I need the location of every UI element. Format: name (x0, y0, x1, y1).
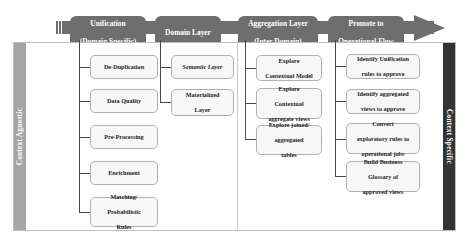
node-pre-processing[interactable]: Pre-Processing (90, 125, 158, 149)
node-line: Pre-Processing (93, 133, 155, 140)
node-line: Glossary of (349, 173, 417, 180)
node-line: Explore (259, 85, 319, 92)
connector-trunk-aggregation (245, 40, 246, 140)
node-identify-unification-rules[interactable]: Identify Unification rules to approve (346, 54, 420, 79)
node-line: views to approve (349, 105, 417, 112)
node-line: Explore joined/ (259, 121, 319, 128)
node-line: rules to approve (349, 70, 417, 77)
node-line: tables (259, 151, 319, 158)
node-line: aggregated (259, 136, 319, 143)
side-label-context-specific: Context Specific (443, 43, 455, 230)
arrow-head-icon (414, 15, 445, 41)
node-line: Probabilistic (93, 208, 155, 215)
node-materialized-layer[interactable]: Materialized Layer (171, 89, 234, 116)
node-explore-contextual-model[interactable]: Explore Contextual Model (256, 55, 322, 81)
stage-label-line1: Promote to (331, 19, 401, 28)
node-line: Build Business (349, 158, 417, 165)
node-matching-probabilistic-rules[interactable]: Matching/ Probabilistic Rules (90, 197, 158, 227)
connector-trunk-unification (79, 40, 80, 213)
node-line: operational jobs (349, 150, 417, 157)
stage-label-line1: Domain Layer (158, 28, 218, 37)
node-line: approved views (349, 188, 417, 195)
side-label-context-agnostic: Context Agnostic (14, 43, 26, 230)
node-convert-exploratory-rules[interactable]: Convert exploratory rules to operational… (346, 123, 420, 154)
node-line: Convert (349, 120, 417, 127)
node-line: Rules (93, 223, 155, 230)
node-build-business-glossary[interactable]: Build Business Glossary of approved view… (346, 161, 420, 192)
connector-trunk-domain-layer (160, 40, 161, 103)
node-line: Layer (174, 106, 231, 113)
node-enrichment[interactable]: Enrichment (90, 161, 158, 185)
process-arrow-band: Unification (Domain Specific) Domain Lay… (0, 8, 469, 46)
stage-label-line1: Unification (73, 19, 143, 28)
node-explore-contextual-aggregate-views[interactable]: Explore Contextual aggregate views (256, 88, 322, 119)
connector-trunk-promote (335, 40, 336, 177)
node-line: De-Duplication (93, 63, 155, 70)
node-data-quality[interactable]: Data Quality (90, 89, 158, 113)
node-line: Enrichment (93, 169, 155, 176)
node-explore-joined-aggregated-tables[interactable]: Explore joined/ aggregated tables (256, 125, 322, 155)
node-line: Identify Unification (349, 55, 417, 62)
node-line: Contextual (259, 100, 319, 107)
node-line: Materialized (174, 91, 231, 98)
node-line: Matching/ (93, 193, 155, 200)
node-line: exploratory rules to (349, 135, 417, 142)
node-line: Explore (259, 57, 319, 64)
side-label-text: Context Specific (445, 109, 453, 164)
node-line: Identify aggregated (349, 90, 417, 97)
stage-label-line1: Aggregation Layer (241, 19, 315, 28)
node-semantic-layer[interactable]: Semantic Layer (171, 55, 234, 79)
node-line: Data Quality (93, 97, 155, 104)
side-label-text: Context Agnostic (16, 108, 24, 165)
node-line: Contextual Model (259, 72, 319, 79)
diagram-canvas: Unification (Domain Specific) Domain Lay… (0, 0, 469, 244)
node-de-duplication[interactable]: De-Duplication (90, 55, 158, 79)
node-line: Semantic Layer (174, 63, 231, 70)
node-identify-aggregated-views[interactable]: Identify aggregated views to approve (346, 89, 420, 114)
column-group-divider (237, 43, 238, 230)
